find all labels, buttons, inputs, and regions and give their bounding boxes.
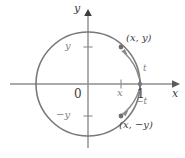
origin-label: 0 [74,88,82,100]
point-marker-unit [138,82,142,86]
point-marker-lower [119,114,124,119]
arc-label-positive-t: t [143,64,147,73]
point-label-upper: (x, y) [126,33,151,43]
unit-circle-figure: y x 0 1 x y −y (x, y) (x, −y) t −t [0,0,185,158]
negative-y-tick-label: −y [56,110,70,120]
y-axis-arrowhead [84,9,92,16]
y-axis [84,9,92,148]
figure-canvas [0,0,185,158]
y-tick-label: y [65,41,71,51]
arc-label-negative-t: −t [136,97,147,106]
x-tick-label: x [117,88,123,98]
point-marker-upper [119,45,124,50]
point-label-lower: (x, −y) [119,120,153,130]
x-axis-label: x [172,88,178,99]
y-axis-label: y [74,3,80,14]
